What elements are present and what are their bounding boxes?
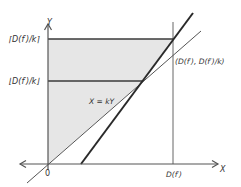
origin-label: 0 [45,169,50,178]
ceil-label: ⌈D(f′)/k⌉ [9,35,40,44]
y-axis-label: Y [47,18,53,27]
diagram: Y X 0 ⌈D(f′)/k⌉ ⌊D(f′)/k⌋ X = kY (D(f′),… [0,0,241,187]
floor-label: ⌊D(f′)/k⌋ [9,77,40,86]
line-label: X = kY [88,97,116,106]
point-label: (D(f′), D(f′)/k) [175,57,225,66]
x-axis-label: X [219,165,226,174]
x-tick-label: D(f′) [166,170,182,179]
